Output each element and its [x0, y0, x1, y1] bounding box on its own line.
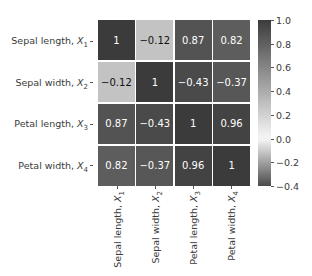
x-axis-tick-2	[155, 186, 156, 189]
x-axis-tick-label-2: Sepal width, X2	[150, 191, 164, 264]
heatmap-cell-r2-c2: 1	[136, 62, 173, 102]
heatmap-cell-value: −0.37	[139, 160, 170, 171]
heatmap-cell-value: 1	[113, 35, 119, 46]
colorbar-tick-label-2: 0.8	[276, 38, 291, 49]
x-axis-tick-label-3: Petal length, X3	[188, 191, 202, 265]
heatmap-cell-r1-c1: 1	[98, 20, 135, 60]
colorbar: 1.00.80.60.40.20.0−0.2−0.4	[258, 20, 312, 186]
heatmap-grid: 1−0.120.870.82−0.121−0.43−0.370.87−0.431…	[98, 20, 250, 186]
heatmap-cell-r4-c4: 1	[213, 146, 250, 186]
y-axis-tick-label-4: Petal width, X4	[18, 145, 88, 187]
heatmap-cell-r2-c3: −0.43	[175, 62, 212, 102]
heatmap-cell-value: 1	[228, 160, 234, 171]
heatmap-cell-value: 0.87	[182, 35, 204, 46]
heatmap-cell-r3-c1: 0.87	[98, 104, 135, 144]
colorbar-tick-label-6: 0.0	[276, 133, 291, 144]
colorbar-tick-label-7: −0.2	[276, 157, 299, 168]
colorbar-tick-label-8: −0.4	[276, 181, 299, 192]
x-axis-tick-label-4: Petal width, X4	[226, 191, 240, 261]
y-axis-labels: Sepal length, X1Sepal width, X2Petal len…	[0, 20, 94, 186]
heatmap-cell-r4-c2: −0.37	[136, 146, 173, 186]
x-axis-tick-1	[117, 186, 118, 189]
heatmap-cell-value: 0.82	[220, 35, 242, 46]
colorbar-tick-6	[271, 139, 274, 140]
heatmap-cell-value: 0.82	[105, 160, 127, 171]
y-axis-tick-label-2: Sepal width, X2	[15, 62, 88, 104]
heatmap-cell-value: 0.96	[182, 160, 204, 171]
heatmap-cell-r2-c1: −0.12	[98, 62, 135, 102]
correlation-heatmap-figure: Sepal length, X1Sepal width, X2Petal len…	[0, 0, 312, 276]
x-axis-tick-slot-4: Petal width, X4	[212, 186, 250, 276]
heatmap-cell-r3-c2: −0.43	[136, 104, 173, 144]
colorbar-gradient	[258, 20, 271, 186]
colorbar-tick-8	[271, 186, 274, 187]
heatmap-cell-value: 0.87	[105, 118, 127, 129]
heatmap-cell-r4-c1: 0.82	[98, 146, 135, 186]
heatmap-cell-value: −0.43	[139, 118, 170, 129]
heatmap-cell-value: −0.37	[216, 77, 247, 88]
heatmap-cell-value: 1	[190, 118, 196, 129]
colorbar-tick-label-1: 1.0	[276, 15, 291, 26]
x-axis-tick-4	[231, 186, 232, 189]
colorbar-tick-1	[271, 20, 274, 21]
colorbar-tick-4	[271, 91, 274, 92]
heatmap-cell-r1-c4: 0.82	[213, 20, 250, 60]
heatmap-cell-r1-c2: −0.12	[136, 20, 173, 60]
x-axis-tick-slot-1: Sepal length, X1	[98, 186, 136, 276]
heatmap-cell-value: −0.12	[101, 77, 132, 88]
heatmap-cell-value: 1	[152, 77, 158, 88]
colorbar-tick-7	[271, 162, 274, 163]
colorbar-tick-5	[271, 115, 274, 116]
y-axis-tick-1	[90, 41, 93, 42]
y-axis-tick-4	[90, 165, 93, 166]
heatmap-cell-r3-c4: 0.96	[213, 104, 250, 144]
heatmap-cell-value: 0.96	[220, 118, 242, 129]
x-axis-tick-3	[193, 186, 194, 189]
y-axis-tick-label-3: Petal length, X3	[14, 103, 88, 145]
x-axis-tick-label-1: Sepal length, X1	[112, 191, 126, 268]
colorbar-tick-label-3: 0.6	[276, 62, 291, 73]
colorbar-tick-label-5: 0.2	[276, 109, 291, 120]
x-axis-tick-slot-2: Sepal width, X2	[136, 186, 174, 276]
x-axis-tick-slot-3: Petal length, X3	[174, 186, 212, 276]
heatmap-cell-r2-c4: −0.37	[213, 62, 250, 102]
heatmap-cell-r3-c3: 1	[175, 104, 212, 144]
y-axis-tick-label-1: Sepal length, X1	[11, 20, 88, 62]
colorbar-tick-label-4: 0.4	[276, 86, 291, 97]
heatmap-cell-r1-c3: 0.87	[175, 20, 212, 60]
heatmap-cell-value: −0.43	[178, 77, 209, 88]
y-axis-tick-2	[90, 82, 93, 83]
y-axis-tick-3	[90, 124, 93, 125]
colorbar-tick-3	[271, 67, 274, 68]
heatmap-cell-r4-c3: 0.96	[175, 146, 212, 186]
x-axis-labels: Sepal length, X1Sepal width, X2Petal len…	[98, 186, 250, 276]
colorbar-tick-2	[271, 44, 274, 45]
heatmap-cell-value: −0.12	[139, 35, 170, 46]
